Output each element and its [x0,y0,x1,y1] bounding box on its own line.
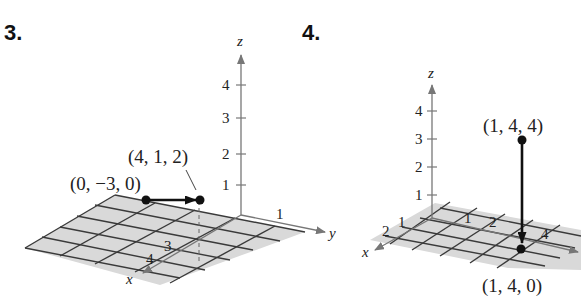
figure-3-initial-point [142,196,151,205]
figure-4-initial-point [518,136,527,145]
figure-4-z-tick-2: 2 [415,159,423,175]
figure-4-initial-point-label: (1, 4, 4) [483,115,543,137]
figure-3-x-tick-4: 4 [146,251,154,267]
figure-4-y-tick-2: 2 [489,214,497,230]
figure-3-vector [142,170,205,205]
figure-3-z-tick-3: 3 [222,110,230,126]
figure-3-y-tick-1: 1 [276,206,284,222]
figure-4-x-tick-2: 2 [382,223,390,239]
figure-3-terminal-point-label: (4, 1, 2) [128,146,188,168]
figure-4-z-tick-3: 3 [415,131,423,147]
figure-3-x-axis-label: x [125,271,133,287]
figure-4-terminal-point-label: (1, 4, 0) [482,275,542,297]
figure-3-y-axis-label: y [327,225,336,241]
figure-3-x-tick-3: 3 [164,238,172,254]
figure-3-z-tick-2: 2 [222,146,230,162]
figure-4-x-tick-1: 1 [398,214,406,230]
figure-4-number: 4. [302,20,320,46]
figure-4-y-tick-4: 4 [541,226,549,242]
figure-4-terminal-point [517,245,526,254]
figure-3-z-tick-1: 1 [222,177,230,193]
figure-4-z-tick-1: 1 [415,187,423,203]
figure-4-x-axis-label: x [361,244,369,260]
figure-3-initial-point-label: (0, −3, 0) [70,173,141,195]
figure-4-z-axis-label: z [427,65,434,81]
figure-3-z-tick-4: 4 [222,77,230,93]
figure-4-xy-plane [370,202,581,270]
figure-4-y-tick-1: 1 [464,210,472,226]
figure-3-terminal-point [196,196,205,205]
figure-3-diagram: z y x 1 2 3 4 1 3 4 (4, 1, 2) (0, −3, 0) [0,0,581,308]
figure-3-z-axis-label: z [236,33,243,49]
figure-4-z-tick-4: 4 [415,103,423,119]
